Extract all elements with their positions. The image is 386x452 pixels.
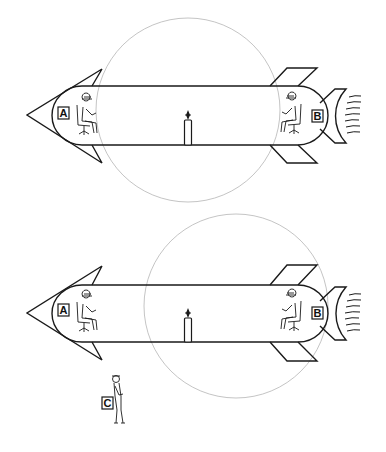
observer-b-bottom: B [281,289,323,331]
relativity-rocket-diagram: A B [0,0,386,452]
label-a-bottom: A [60,304,68,316]
seated-person-b-icon [281,289,301,331]
light-source-top [185,110,192,145]
label-c: C [104,397,112,409]
exhaust-lines-bottom [345,294,361,331]
label-a-top: A [60,107,68,119]
seated-person-a-icon [77,290,97,332]
bottom-panel: A B C [27,214,361,423]
diagram-canvas: A B [0,0,386,452]
light-source-bottom [185,308,192,342]
label-b-bottom: B [314,307,322,319]
label-b-top: B [314,110,322,122]
upper-fin-top [270,68,317,86]
top-panel: A B [27,18,361,202]
observer-a-bottom: A [58,290,97,332]
lower-fin-top [270,145,317,163]
observer-c: C [102,376,125,424]
lower-fin-bottom [270,342,317,361]
upper-fin-bottom [270,265,317,285]
standing-person-c-icon [112,376,125,424]
exhaust-lines-top [345,96,361,133]
